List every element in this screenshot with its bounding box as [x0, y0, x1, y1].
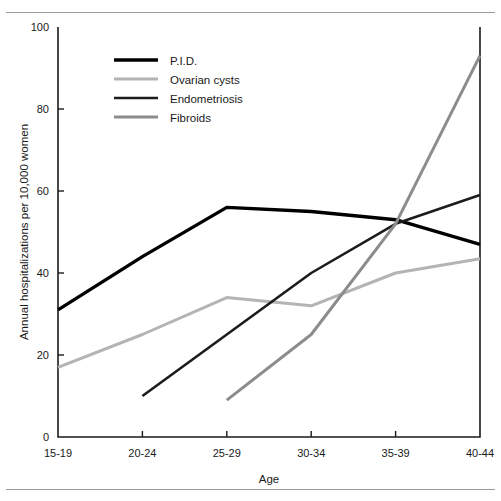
y-tick-label: 80 [37, 103, 49, 115]
y-axis-title: Annual hospitalizations per 10,000 women [18, 124, 30, 340]
x-tick-label: 20-24 [128, 447, 156, 459]
x-tick-label: 40-44 [466, 447, 494, 459]
x-tick-label: 30-34 [297, 447, 325, 459]
legend-label: Endometriosis [170, 93, 243, 105]
line-chart: 020406080100 15-1920-2425-2930-3435-3940… [0, 0, 501, 501]
y-tick-label: 60 [37, 185, 49, 197]
legend-label: P.I.D. [170, 55, 197, 67]
y-tick-label: 40 [37, 267, 49, 279]
x-axis-title: Age [259, 473, 279, 485]
y-tick-label: 0 [43, 431, 49, 443]
plot-background [58, 27, 480, 437]
figure-container: 020406080100 15-1920-2425-2930-3435-3940… [0, 0, 501, 501]
plot-frame [58, 27, 480, 437]
x-tick-label: 35-39 [382, 447, 410, 459]
legend-label: Ovarian cysts [170, 74, 240, 86]
x-tick-label: 25-29 [213, 447, 241, 459]
legend-label: Fibroids [170, 112, 211, 124]
x-tick-label: 15-19 [44, 447, 72, 459]
y-tick-label: 20 [37, 349, 49, 361]
y-tick-label: 100 [31, 21, 49, 33]
